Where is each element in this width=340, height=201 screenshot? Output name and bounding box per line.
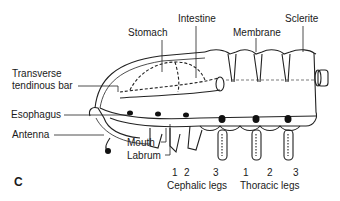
label-sclerite: Sclerite <box>285 13 318 24</box>
label-intestine: Intestine <box>178 13 216 24</box>
leader-transverse <box>78 86 118 92</box>
cephalic-leg-number-2: 2 <box>184 167 190 178</box>
thoracic-leg-number-2: 2 <box>267 167 273 178</box>
thoracic-leg-number-3: 3 <box>293 167 299 178</box>
insect-body-diagram <box>0 0 340 201</box>
gut-tube <box>120 78 218 92</box>
label-labrum: Labrum <box>127 150 161 161</box>
label-mouth: Mouth <box>127 137 155 148</box>
label-transverse-line2: tendinous bar <box>12 80 73 91</box>
label-antenna: Antenna <box>12 129 49 140</box>
cephalic-leg-number-3: 3 <box>213 167 219 178</box>
thoracic-leg-number-1: 1 <box>243 167 249 178</box>
head-outline <box>95 52 205 108</box>
cephalic-leg-number-1: 1 <box>172 167 178 178</box>
cephalic-legs-title: Cephalic legs <box>167 180 227 191</box>
label-stomach: Stomach <box>128 27 167 38</box>
thoracic-legs-title: Thoracic legs <box>240 180 299 191</box>
dorsal-segments <box>205 50 316 54</box>
label-esophagus: Esophagus <box>11 109 61 120</box>
label-transverse-line1: Transverse <box>12 68 62 79</box>
panel-label: C <box>14 175 23 189</box>
label-membrane: Membrane <box>233 27 281 38</box>
